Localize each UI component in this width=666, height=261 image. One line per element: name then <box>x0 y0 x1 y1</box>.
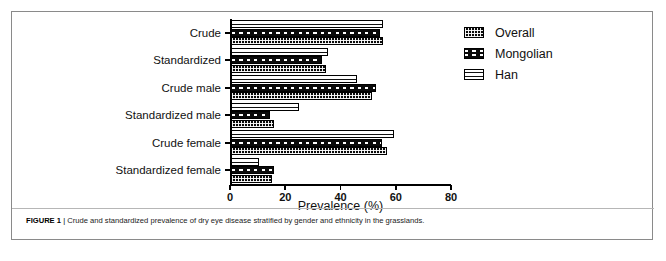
y-tick-0 <box>225 32 230 34</box>
legend-label-overall: Overall <box>495 26 535 40</box>
bar-standardized-male-han <box>231 103 299 111</box>
bar-standardized-mongolian <box>231 56 322 64</box>
legend-swatch-mongolian <box>464 48 484 59</box>
bar-crude-female-overall <box>231 147 387 155</box>
y-tick-3 <box>225 114 230 116</box>
x-tick-80 <box>450 185 452 190</box>
bar-standardized-overall <box>231 65 326 73</box>
caption-divider <box>12 208 654 209</box>
bar-crude-male-mongolian <box>231 84 376 92</box>
bar-crude-female-mongolian <box>231 139 382 147</box>
y-tick-5 <box>225 169 230 171</box>
x-tick-0 <box>229 185 231 190</box>
legend-item-overall: Overall <box>464 22 634 43</box>
bar-crude-male-overall <box>231 92 372 100</box>
y-tick-label-crude: Crude <box>190 27 221 39</box>
y-tick-label-standardized-male: Standardized male <box>125 109 221 121</box>
chart-legend: OverallMongolianHan <box>464 22 634 85</box>
bar-crude-male-han <box>231 75 357 83</box>
figure-panel: 020406080 CrudeStandardizedCrude maleSta… <box>11 11 653 240</box>
y-tick-label-crude-male: Crude male <box>162 82 221 94</box>
caption-figure-number: FIGURE 1 <box>26 216 61 225</box>
legend-label-mongolian: Mongolian <box>495 47 553 61</box>
legend-swatch-han <box>464 69 484 80</box>
x-tick-20 <box>284 185 286 190</box>
legend-item-han: Han <box>464 64 634 85</box>
bar-crude-han <box>231 20 383 28</box>
bar-chart: 020406080 CrudeStandardizedCrude maleSta… <box>230 19 451 184</box>
caption-body-text: Crude and standardized prevalence of dry… <box>67 216 424 225</box>
figure-caption: FIGURE 1 | Crude and standardized preval… <box>26 215 640 226</box>
y-tick-2 <box>225 87 230 89</box>
bar-standardized-male-overall <box>231 120 274 128</box>
bar-standardized-female-overall <box>231 175 272 183</box>
caption-separator: | <box>63 216 65 225</box>
bar-crude-overall <box>231 37 383 45</box>
x-tick-60 <box>395 185 397 190</box>
bar-standardized-female-han <box>231 158 259 166</box>
legend-item-mongolian: Mongolian <box>464 43 634 64</box>
bar-standardized-female-mongolian <box>231 166 274 174</box>
y-tick-label-standardized: Standardized <box>153 54 221 66</box>
legend-label-han: Han <box>495 68 518 82</box>
bar-standardized-male-mongolian <box>231 111 270 119</box>
legend-swatch-overall <box>464 27 484 38</box>
y-tick-label-standardized-female: Standardized female <box>116 164 221 176</box>
y-tick-1 <box>225 59 230 61</box>
x-tick-40 <box>340 185 342 190</box>
bar-crude-female-han <box>231 130 394 138</box>
bar-crude-mongolian <box>231 29 380 37</box>
y-tick-label-crude-female: Crude female <box>152 137 221 149</box>
chart-plot-area: 020406080 CrudeStandardizedCrude maleSta… <box>12 12 654 208</box>
bar-standardized-han <box>231 48 328 56</box>
y-tick-4 <box>225 142 230 144</box>
x-axis-title: Prevalence (%) <box>230 199 451 213</box>
